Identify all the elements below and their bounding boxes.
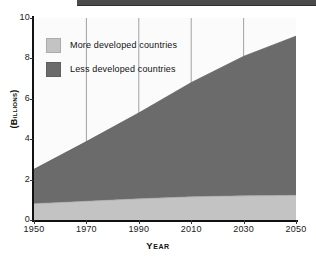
- top-rule-bar: [77, 0, 316, 6]
- legend-item-less-developed: Less developed countries: [46, 60, 196, 78]
- y-tick-label-0: 0: [4, 215, 30, 224]
- legend-swatch-more-developed: [46, 38, 61, 53]
- y-tick-label-8: 8: [4, 53, 30, 62]
- y-axis-line: [32, 16, 34, 222]
- x-tick-mark-2030: [244, 220, 245, 224]
- x-axis-ticks: 195019701990201020302050: [0, 224, 316, 238]
- x-tick-mark-1970: [86, 220, 87, 224]
- y-tick-label-10: 10: [4, 13, 30, 22]
- y-axis-title: (Billions): [9, 69, 19, 149]
- x-tick-label-1990: 1990: [128, 224, 149, 234]
- y-tick-mark-10: [30, 18, 33, 19]
- y-tick-mark-2: [30, 180, 33, 181]
- y-tick-mark-6: [30, 99, 33, 100]
- y-tick-mark-4: [30, 139, 33, 140]
- x-tick-mark-1950: [34, 220, 35, 224]
- x-tick-label-2050: 2050: [286, 224, 307, 234]
- legend-swatch-less-developed: [46, 62, 61, 77]
- x-tick-mark-1990: [139, 220, 140, 224]
- x-tick-label-2030: 2030: [233, 224, 254, 234]
- y-tick-label-2: 2: [4, 175, 30, 184]
- x-axis-line: [32, 220, 298, 222]
- legend-item-more-developed: More developed countries: [46, 36, 196, 54]
- legend-label-more-developed: More developed countries: [70, 40, 177, 50]
- x-tick-label-1970: 1970: [76, 224, 97, 234]
- x-tick-mark-2010: [191, 220, 192, 224]
- chart-legend: More developed countries Less developed …: [46, 36, 196, 84]
- y-tick-mark-8: [30, 58, 33, 59]
- legend-label-less-developed: Less developed countries: [70, 64, 176, 74]
- population-projection-chart: 0246810 195019701990201020302050 (Billio…: [0, 0, 316, 258]
- x-tick-label-1950: 1950: [24, 224, 45, 234]
- x-tick-mark-2050: [296, 220, 297, 224]
- x-tick-label-2010: 2010: [181, 224, 202, 234]
- x-axis-title: Year: [0, 240, 316, 251]
- y-tick-mark-0: [30, 220, 33, 221]
